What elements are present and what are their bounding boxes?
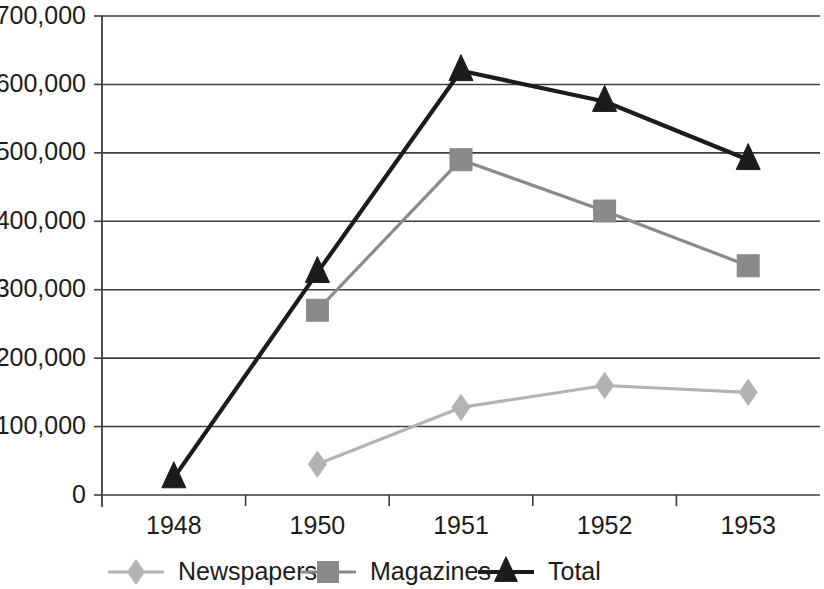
- data-point-marker-diamond: [452, 394, 470, 420]
- series-magazines: [306, 149, 759, 322]
- legend-label: Newspapers: [178, 557, 317, 585]
- data-point-marker-square: [318, 562, 339, 583]
- series-total: [162, 55, 760, 488]
- data-point-marker-diamond: [127, 560, 144, 585]
- data-point-marker-triangle: [495, 557, 518, 582]
- data-point-marker-diamond: [596, 373, 614, 399]
- y-axis: 0100,000200,000300,000400,000500,000600,…: [0, 1, 102, 508]
- legend-item-newspapers[interactable]: Newspapers: [108, 557, 317, 585]
- data-point-marker-diamond: [739, 379, 757, 405]
- x-tick-label: 1951: [433, 511, 489, 539]
- series-newspapers: [308, 373, 757, 478]
- y-tick-label: 100,000: [0, 411, 86, 439]
- legend-item-magazines[interactable]: Magazines: [300, 557, 491, 585]
- y-tick-label: 700,000: [0, 1, 86, 29]
- chart-legend: NewspapersMagazinesTotal: [108, 557, 601, 585]
- chart-canvas: 0100,000200,000300,000400,000500,000600,…: [0, 0, 824, 589]
- y-tick-label: 0: [72, 480, 86, 508]
- data-point-marker-square: [450, 149, 472, 171]
- x-tick-label: 1948: [146, 511, 202, 539]
- y-tick-label: 200,000: [0, 343, 86, 371]
- y-tick-label: 400,000: [0, 206, 86, 234]
- legend-label: Magazines: [370, 557, 491, 585]
- legend-item-total[interactable]: Total: [478, 557, 601, 585]
- data-series: [162, 55, 760, 488]
- line-chart: 0100,000200,000300,000400,000500,000600,…: [0, 0, 824, 589]
- x-axis: 19481950195119521953: [146, 495, 776, 539]
- x-tick-label: 1953: [720, 511, 776, 539]
- data-point-marker-triangle: [449, 55, 473, 81]
- x-tick-label: 1952: [577, 511, 633, 539]
- data-point-marker-square: [594, 200, 616, 222]
- y-tick-label: 300,000: [0, 274, 86, 302]
- y-tick-label: 600,000: [0, 69, 86, 97]
- data-point-marker-square: [737, 255, 759, 277]
- data-point-marker-square: [306, 299, 328, 321]
- y-tick-label: 500,000: [0, 137, 86, 165]
- x-tick-label: 1950: [290, 511, 346, 539]
- data-point-marker-diamond: [308, 451, 326, 477]
- legend-label: Total: [548, 557, 601, 585]
- series-line: [317, 386, 748, 465]
